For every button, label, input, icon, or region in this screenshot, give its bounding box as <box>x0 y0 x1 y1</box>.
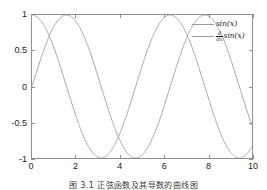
x-tick-mark <box>164 155 165 159</box>
y-tick-label: -0.5 <box>27 117 43 128</box>
figure-container: 0246810 10.50-0.5-1 sin(x) ddxsin(x) 图 3… <box>0 0 267 190</box>
legend-line-sample-derivative <box>192 36 214 37</box>
y-tick-mark <box>249 123 253 124</box>
x-tick-mark <box>164 14 165 18</box>
legend-label-sin: sin(x) <box>216 20 237 28</box>
x-tick-mark <box>75 155 76 159</box>
legend: sin(x) ddxsin(x) <box>192 18 254 42</box>
x-tick-mark <box>75 14 76 18</box>
legend-entry-sin: sin(x) <box>192 18 254 30</box>
x-tick-mark <box>253 155 254 159</box>
x-tick-label: 6 <box>162 161 167 172</box>
y-tick-mark <box>249 14 253 15</box>
x-tick-label: 10 <box>248 161 258 172</box>
y-tick-mark <box>249 50 253 51</box>
x-tick-label: 4 <box>117 161 122 172</box>
legend-label-derivative: ddxsin(x) <box>216 31 245 42</box>
x-tick-mark <box>120 14 121 18</box>
figure-caption: 图 3.1 正弦函数及其导数的曲线图 <box>0 179 267 190</box>
legend-entry-derivative: ddxsin(x) <box>192 30 254 42</box>
y-tick-label: -1 <box>27 154 35 165</box>
legend-line-sample-sin <box>192 24 214 25</box>
x-tick-mark <box>209 155 210 159</box>
derivative-fraction: ddx <box>216 31 223 42</box>
y-tick-label: 1 <box>27 9 32 20</box>
y-tick-mark <box>249 159 253 160</box>
x-tick-label: 8 <box>206 161 211 172</box>
x-tick-label: 2 <box>73 161 78 172</box>
y-tick-label: 0.5 <box>27 45 40 56</box>
y-tick-mark <box>249 87 253 88</box>
x-tick-mark <box>120 155 121 159</box>
y-tick-label: 0 <box>27 81 32 92</box>
